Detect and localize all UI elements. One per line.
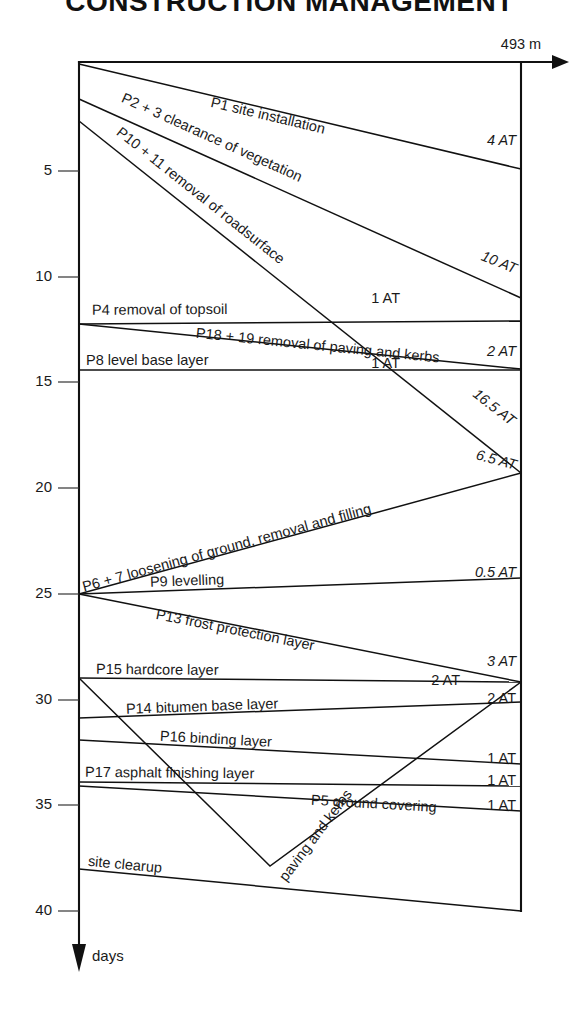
task-label-p17: P17 asphalt finishing layer bbox=[85, 764, 255, 781]
task-label-p1: P1 site installation bbox=[209, 94, 326, 137]
task-line-p4[interactable] bbox=[79, 321, 521, 324]
task-line-site-clearup[interactable] bbox=[79, 869, 521, 911]
task-label-p16: P16 binding layer bbox=[160, 728, 273, 750]
task-lines bbox=[79, 64, 521, 911]
diagram-page: CONSTRUCTION MANAGEMENT 5 10 15 20 25 bbox=[0, 0, 579, 1021]
task-line-p17[interactable] bbox=[79, 782, 521, 786]
task-label-p14: P14 bitumen base layer bbox=[126, 695, 279, 717]
duration-label-p18-19: 2 AT bbox=[486, 343, 517, 359]
task-label-p4: P4 removal of topsoil bbox=[92, 301, 228, 318]
duration-label-p14: 2 AT bbox=[487, 690, 516, 706]
duration-label-p16: 1 AT bbox=[487, 750, 516, 766]
tick-label-30: 30 bbox=[35, 690, 52, 707]
duration-label-p6-7: 6.5 AT bbox=[475, 447, 520, 473]
task-label-p8: P8 level base layer bbox=[86, 352, 209, 368]
tick-label-20: 20 bbox=[35, 478, 52, 495]
task-label-p6-7: P6 + 7 loosening of ground, removal and … bbox=[81, 500, 373, 594]
task-label-p13: P13 frost protection layer bbox=[155, 606, 316, 653]
duration-label-p13: 3 AT bbox=[487, 653, 517, 669]
duration-labels: 4 AT 10 AT 1 AT 1 AT 2 AT 16.5 AT 6.5 AT… bbox=[371, 132, 520, 813]
task-label-p18-19: P18 + 19 removal of paving and kerbs bbox=[195, 325, 440, 366]
distance-axis-caption: 493 m bbox=[501, 36, 541, 52]
task-line-p9[interactable] bbox=[79, 578, 521, 594]
duration-label-p5: 1 AT bbox=[487, 797, 516, 813]
tick-label-25: 25 bbox=[35, 584, 52, 601]
duration-label-p4-alt: 1 AT bbox=[371, 290, 400, 306]
time-axis-arrowhead bbox=[72, 944, 86, 972]
distance-axis-arrowhead bbox=[552, 55, 569, 69]
task-line-p5[interactable] bbox=[79, 786, 521, 811]
duration-label-p2-3: 10 AT bbox=[479, 248, 520, 277]
time-distance-chart: 5 10 15 20 25 30 35 40 493 m days bbox=[0, 0, 579, 1021]
task-label-p9: P9 levelling bbox=[150, 571, 225, 590]
duration-label-p9: 0.5 AT bbox=[475, 564, 517, 580]
tick-label-15: 15 bbox=[35, 372, 52, 389]
duration-label-p17: 1 AT bbox=[487, 772, 516, 788]
duration-label-p1: 4 AT bbox=[487, 132, 517, 148]
tick-label-5: 5 bbox=[44, 161, 52, 178]
task-labels: P1 site installation P2 + 3 clearance of… bbox=[81, 90, 441, 884]
task-label-site-clearup: site clearup bbox=[87, 853, 162, 876]
time-axis-caption: days bbox=[92, 947, 124, 964]
tick-label-10: 10 bbox=[35, 267, 52, 284]
tick-label-35: 35 bbox=[35, 795, 52, 812]
tick-label-40: 40 bbox=[35, 901, 52, 918]
duration-label-p4: 1 AT bbox=[371, 355, 400, 371]
time-axis-ticks: 5 10 15 20 25 30 35 40 bbox=[35, 161, 79, 918]
duration-label-p10-11: 16.5 AT bbox=[470, 385, 519, 429]
task-label-p10-11: P10 + 11 removal of roadsurface bbox=[114, 124, 288, 267]
task-label-p15: P15 hardcore layer bbox=[96, 661, 219, 678]
duration-label-p15: 2 AT bbox=[431, 672, 460, 688]
